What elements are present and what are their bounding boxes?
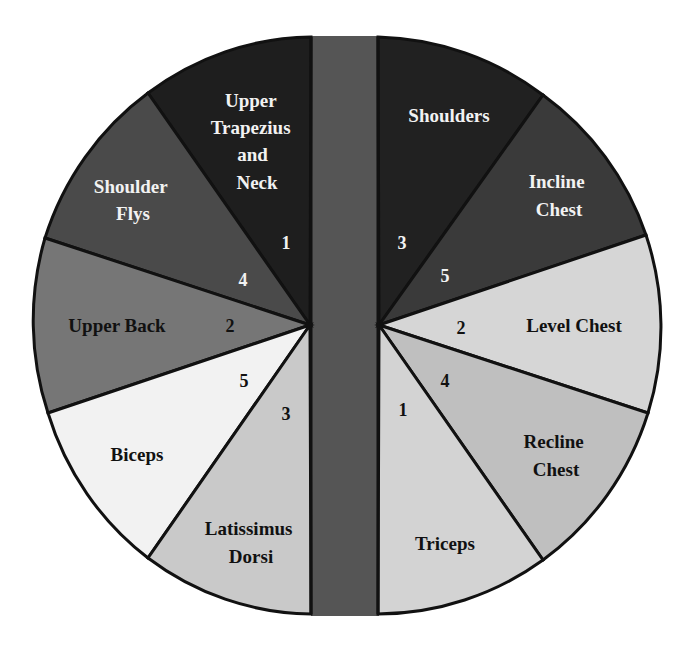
label-shoulders: Shoulders (408, 105, 489, 126)
number-shoulder-flys: 4 (239, 270, 248, 290)
label-upper-back: Upper Back (68, 315, 166, 336)
number-biceps: 5 (240, 371, 249, 391)
number-latissimus-dorsi: 3 (282, 404, 291, 424)
number-triceps: 1 (399, 400, 408, 420)
label-biceps: Biceps (111, 444, 164, 465)
number-upper-back: 2 (226, 316, 235, 336)
number-recline-chest: 4 (441, 371, 450, 391)
split-pie-diagram: Upper Trapezius and Neck 1 Shoulder Flys… (0, 0, 689, 646)
label-level-chest: Level Chest (526, 315, 622, 336)
number-upper-trapezius-and-neck: 1 (282, 233, 291, 253)
number-shoulders: 3 (398, 233, 407, 253)
number-level-chest: 2 (457, 318, 466, 338)
number-incline-chest: 5 (441, 266, 450, 286)
label-triceps: Triceps (415, 533, 475, 554)
center-bar (311, 36, 379, 616)
